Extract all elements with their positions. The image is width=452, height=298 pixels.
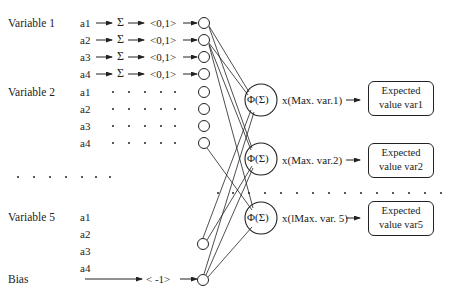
phi-sigma-node-3: Φ(Σ) (247, 211, 269, 223)
variable-2-label: Variable 2 (8, 86, 55, 98)
scale-label-2: x(Max. var.2) (282, 154, 342, 166)
scale-label-1: x(Max. var.1) (282, 94, 342, 106)
input-nodes (198, 18, 210, 286)
sum-symbol: Σ (117, 16, 124, 28)
input-label: a4 (80, 68, 90, 80)
input-label: a4 (80, 262, 90, 274)
input-label: a2 (80, 228, 90, 240)
variable-5-label: Variable 5 (8, 211, 55, 223)
scale-label-3: x(lMax. var. 5) (282, 212, 348, 224)
bias-value: < -1> (146, 273, 170, 285)
output-box-var5: Expected value var5 (368, 201, 434, 236)
input-label: a2 (80, 34, 90, 46)
sum-symbol: Σ (117, 50, 124, 62)
output-line: Expected (369, 204, 433, 218)
normalize-label: <0,1> (150, 34, 176, 46)
output-line: value var2 (369, 160, 433, 174)
normalize-label: <0,1> (150, 51, 176, 63)
phi-sigma-node-2: Φ(Σ) (247, 152, 269, 164)
input-label: a3 (80, 245, 90, 257)
bias-label: Bias (8, 273, 28, 285)
input-label: a2 (80, 103, 90, 115)
variable-1-label: Variable 1 (8, 17, 55, 29)
normalize-label: <0,1> (150, 68, 176, 80)
phi-sigma-node-1: Φ(Σ) (247, 93, 269, 105)
sum-symbol: Σ (117, 67, 124, 79)
output-line: value var1 (369, 98, 433, 112)
output-box-var1: Expected value var1 (368, 81, 434, 116)
output-line: Expected (369, 84, 433, 98)
output-line: value var5 (369, 218, 433, 232)
input-label: a3 (80, 120, 90, 132)
input-label: a4 (80, 137, 90, 149)
output-line: Expected (369, 146, 433, 160)
input-label: a1 (80, 17, 90, 29)
input-label: a1 (80, 86, 90, 98)
sum-symbol: Σ (117, 33, 124, 45)
input-label: a1 (80, 211, 90, 223)
output-box-var2: Expected value var2 (368, 143, 434, 178)
input-label: a3 (80, 51, 90, 63)
normalize-label: <0,1> (150, 17, 176, 29)
